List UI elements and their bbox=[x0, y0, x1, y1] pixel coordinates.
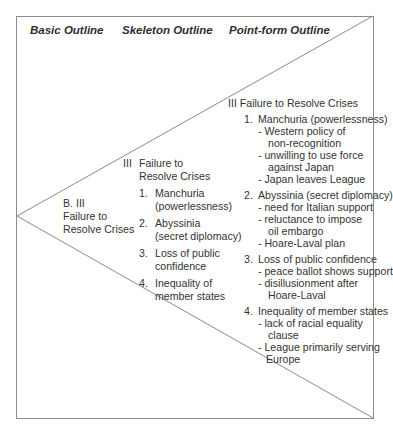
skeleton-item-number: 1. bbox=[139, 187, 148, 200]
pointform-point: - League primarily serving bbox=[258, 341, 380, 354]
pointform-item-title: Manchuria (powerlessness) bbox=[258, 113, 388, 126]
pointform-point: - lack of racial equality bbox=[258, 317, 363, 330]
basic-line: Failure to bbox=[63, 210, 107, 223]
skeleton-item-text: confidence bbox=[155, 260, 206, 273]
skeleton-item-text: Abyssinia bbox=[155, 217, 200, 230]
skeleton-item-text: member states bbox=[155, 290, 225, 303]
header-skeleton-outline: Skeleton Outline bbox=[122, 24, 213, 36]
pointform-point: - Hoare-Laval plan bbox=[258, 237, 345, 250]
pointform-point: - need for Italian support bbox=[258, 201, 373, 214]
pointform-point-cont: clause bbox=[268, 329, 299, 342]
pointform-title: III Failure to Resolve Crises bbox=[228, 97, 358, 110]
pointform-point-cont: Hoare-Laval bbox=[268, 289, 326, 302]
skeleton-item-text: (powerlessness) bbox=[155, 200, 232, 213]
skeleton-title: Resolve Crises bbox=[139, 170, 210, 183]
pointform-item-number: 3. bbox=[244, 253, 253, 266]
pointform-point-cont: against Japan bbox=[268, 161, 334, 174]
basic-line: Resolve Crises bbox=[63, 223, 134, 236]
pointform-item-number: 4. bbox=[244, 305, 253, 318]
pointform-item-number: 1. bbox=[244, 113, 253, 126]
header-basic-outline: Basic Outline bbox=[30, 24, 104, 36]
header-pointform-outline: Point-form Outline bbox=[229, 24, 330, 36]
pointform-point: - disillusionment after bbox=[258, 277, 358, 290]
pointform-point-cont: non-recognition bbox=[268, 137, 341, 150]
basic-line: B. III bbox=[63, 197, 85, 210]
pointform-point-cont: oil embargo bbox=[268, 225, 323, 238]
skeleton-item-text: Loss of public bbox=[155, 247, 220, 260]
skeleton-numeral: III bbox=[123, 157, 132, 170]
pointform-item-number: 2. bbox=[244, 189, 253, 202]
pointform-point: - Japan leaves League bbox=[258, 173, 365, 186]
skeleton-item-text: Manchuria bbox=[155, 187, 204, 200]
pointform-item-title: Inequality of member states bbox=[258, 305, 388, 318]
pointform-point: - reluctance to impose bbox=[258, 213, 362, 226]
pointform-item-title: Abyssinia (secret diplomacy) bbox=[258, 189, 393, 202]
pointform-point: - unwilling to use force bbox=[258, 149, 363, 162]
pointform-point-cont: Europe bbox=[266, 353, 300, 366]
skeleton-item-text: Inequality of bbox=[155, 277, 212, 290]
skeleton-item-number: 4. bbox=[139, 277, 148, 290]
skeleton-title: Failure to bbox=[139, 157, 183, 170]
pointform-item-title: Loss of public confidence bbox=[258, 253, 377, 266]
pointform-point: - peace ballot shows support bbox=[258, 265, 393, 278]
skeleton-item-text: (secret diplomacy) bbox=[155, 230, 242, 243]
skeleton-item-number: 2. bbox=[139, 217, 148, 230]
skeleton-item-number: 3. bbox=[139, 247, 148, 260]
pointform-point: - Western policy of bbox=[258, 125, 346, 138]
